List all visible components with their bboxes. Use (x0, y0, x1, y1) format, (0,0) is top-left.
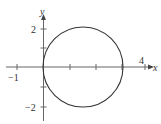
x-tick-label-4: 4 (139, 55, 144, 66)
y-tick-label-neg2: −2 (25, 102, 36, 113)
x-axis-label: x (152, 62, 158, 73)
circle-plot: y x −1 4 2 −2 (0, 0, 161, 124)
x-tick-label-neg1: −1 (8, 72, 19, 83)
y-axis-label: y (39, 6, 45, 17)
y-tick-label-2: 2 (31, 24, 36, 35)
